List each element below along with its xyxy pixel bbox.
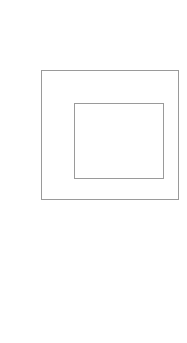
diagram-canvas	[0, 0, 187, 343]
inner-rectangle	[74, 103, 164, 179]
